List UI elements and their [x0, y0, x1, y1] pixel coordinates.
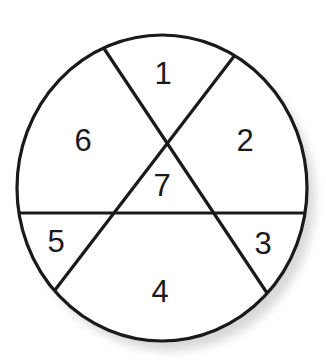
region-label-4: 4	[151, 274, 168, 309]
region-label-1: 1	[154, 56, 171, 91]
region-label-5: 5	[47, 224, 64, 259]
region-label-3: 3	[254, 226, 271, 261]
region-label-6: 6	[74, 123, 91, 158]
region-label-2: 2	[236, 123, 253, 158]
region-label-7: 7	[153, 168, 170, 203]
circle-region-diagram: 1 2 3 4 5 6 7	[0, 0, 326, 363]
